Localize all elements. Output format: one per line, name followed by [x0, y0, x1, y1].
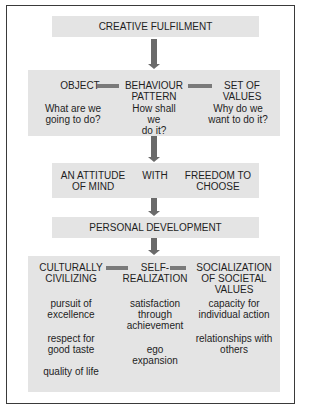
values-heading-l1: SET OF [208, 80, 276, 91]
personal-development-box: PERSONAL DEVELOPMENT [52, 217, 259, 238]
outcomes-box: CULTURALLY CIVILIZING SELF- REALIZATION … [28, 256, 280, 392]
behaviour-heading-l1: BEHAVIOUR [118, 80, 190, 91]
freedom-l2: CHOOSE [180, 181, 256, 192]
connector-bar [170, 266, 186, 270]
self-item-2-l2: expansion [120, 355, 190, 366]
self-heading-l2: REALIZATION [120, 273, 190, 284]
behaviour-question-l3: do it? [118, 125, 190, 136]
self-item-1-l1: satisfaction [120, 298, 190, 309]
self-item-1-l2: through [120, 309, 190, 320]
cultural-item-1-l1: pursuit of [38, 298, 104, 309]
values-question-l2: want to do it? [200, 114, 276, 125]
cultural-heading-l2: CIVILIZING [38, 273, 104, 284]
social-item-1-l1: capacity for [194, 298, 274, 309]
self-item-2-l1: ego [120, 344, 190, 355]
attitude-freedom-box: AN ATTITUDE OF MIND WITH FREEDOM TO CHOO… [52, 163, 259, 198]
social-item-2-l2: others [194, 344, 274, 355]
arrow-down-icon [148, 39, 160, 70]
creative-fulfilment-box: CREATIVE FULFILMENT [52, 16, 259, 37]
connector-bar [97, 84, 119, 88]
behaviour-question-l1: How shall [118, 103, 190, 114]
behaviour-question-l2: we [118, 114, 190, 125]
values-heading-l2: VALUES [208, 91, 276, 102]
social-heading-l1: SOCIALIZATION [194, 262, 274, 273]
personal-development-label: PERSONAL DEVELOPMENT [52, 222, 259, 233]
social-item-2-l1: relationships with [194, 333, 274, 344]
behaviour-heading-l2: PATTERN [118, 91, 190, 102]
arrow-down-icon [148, 198, 160, 217]
object-question-l2: going to do? [36, 114, 110, 125]
social-heading-l3: VALUES [194, 284, 274, 295]
social-heading-l2: OF SOCIETAL [194, 273, 274, 284]
values-question-l1: Why do we [200, 103, 276, 114]
object-behaviour-values-box: OBJECT BEHAVIOUR PATTERN SET OF VALUES W… [28, 70, 280, 136]
cultural-item-2-l2: good taste [38, 344, 104, 355]
object-question-l1: What are we [36, 103, 110, 114]
freedom-l1: FREEDOM TO [180, 170, 256, 181]
with-label: WITH [130, 170, 180, 181]
cultural-heading-l1: CULTURALLY [38, 262, 104, 273]
self-item-1-l3: achievement [120, 320, 190, 331]
cultural-item-1-l2: excellence [38, 309, 104, 320]
attitude-l1: AN ATTITUDE [58, 170, 128, 181]
cultural-item-3-l1: quality of life [36, 366, 106, 377]
cultural-item-2-l1: respect for [38, 333, 104, 344]
creative-fulfilment-label: CREATIVE FULFILMENT [52, 21, 259, 32]
arrow-down-icon [148, 136, 160, 163]
arrow-down-icon [148, 238, 160, 256]
attitude-l2: OF MIND [58, 181, 128, 192]
social-item-1-l2: individual action [194, 309, 274, 320]
